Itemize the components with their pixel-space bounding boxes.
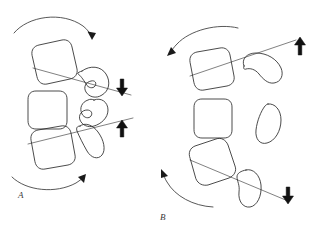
panel-label-a: A [17, 190, 24, 200]
hand-drawn-diagram: A [0, 0, 319, 240]
background [0, 0, 319, 240]
figure-canvas: A [0, 0, 319, 240]
panel-label-b: B [160, 212, 166, 222]
